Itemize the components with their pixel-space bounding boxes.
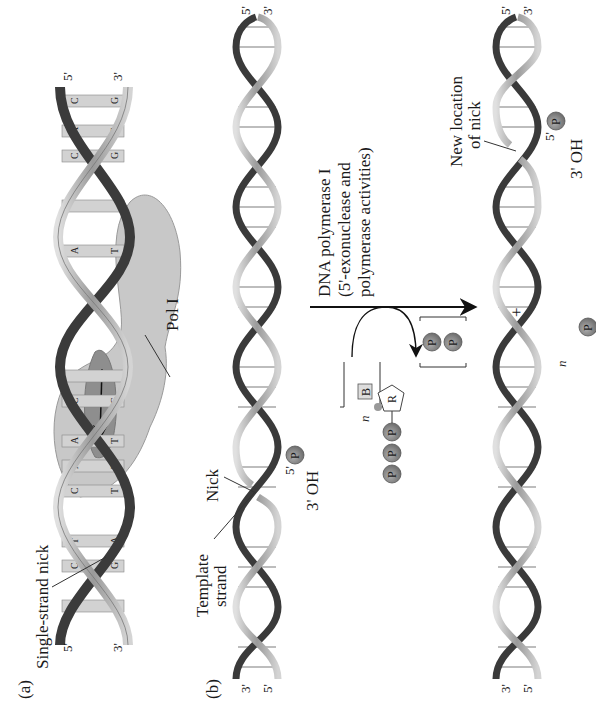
base-letter: A: [69, 246, 80, 254]
base-letter: T: [109, 248, 120, 254]
panel-b-top: (b) Template strand Nick 3': [193, 6, 322, 699]
phosphate-label: P: [385, 450, 399, 457]
linkage-dot: [374, 403, 382, 411]
pyrophosphate: P P: [420, 317, 466, 367]
panel-b-label: (b): [203, 679, 222, 699]
new-nick-5prime-label: 5': [542, 132, 557, 141]
new-nick-label-line2: of nick: [465, 101, 484, 149]
nick-phosphate-label: P: [288, 452, 302, 459]
phosphate-label: P: [581, 324, 595, 331]
base-label: B: [359, 388, 373, 396]
helix-a-left-5prime: 5': [60, 643, 75, 652]
helix-a-left-3prime: 3': [110, 643, 125, 652]
helix-b-bottom-left-end-2: 5': [520, 684, 535, 693]
nick-3oh-label: 3' OH: [303, 471, 322, 511]
phosphate-label: P: [385, 429, 399, 436]
new-nick-phosphate-label: P: [549, 118, 563, 125]
helix-b-top-left-end-2: 5': [260, 684, 275, 693]
panel-b-bottom: New location of nick 3' 5' 5' 3': [447, 6, 586, 693]
helix-a-right-5prime: 5': [60, 72, 75, 81]
new-nick-3oh-label: 3' OH: [567, 139, 586, 179]
enzyme-line-2: (5'-exonuclease and: [335, 162, 354, 297]
substrate-to-pyrophosphate-arrow: [352, 307, 416, 357]
base-letter: C: [69, 97, 80, 104]
single-strand-nick-label: Single-strand nick: [33, 544, 52, 669]
product-dnmp: n P +: [507, 307, 596, 367]
base-letter: G: [109, 152, 120, 159]
reaction-scheme: DNA polymerase I (5'-exonuclease and pol…: [310, 147, 596, 483]
base-letter: C: [69, 487, 80, 494]
helix-b-bottom: [484, 17, 538, 679]
substrate-dntp: n P P P R B: [340, 362, 404, 483]
nick-5prime-label: 5': [282, 466, 297, 475]
phosphate-label: P: [446, 339, 460, 346]
helix-b-bottom-right-end-1: 5': [498, 6, 513, 15]
base-letter: C: [69, 152, 80, 159]
panel-a-label: (a): [15, 680, 34, 699]
nick-label: Nick: [203, 468, 222, 502]
pol-i-label: Pol I: [163, 298, 182, 331]
base-letter: G: [109, 97, 120, 104]
template-strand-label-line2: strand: [211, 565, 230, 607]
substrate-multiplier: n: [357, 416, 372, 423]
helix-b-bottom-left-end-1: 3': [498, 684, 513, 693]
dna-polymerase-nick-translation-diagram: (a) Single-strand nick: [0, 0, 596, 707]
helix-b-top-right-end-1: 5': [238, 6, 253, 15]
helix-a-right-3prime: 3': [110, 72, 125, 81]
enzyme-line-1: DNA polymerase I: [315, 168, 334, 297]
helix-b-bottom-right-end-2: 3': [520, 6, 535, 15]
product-multiplier: n: [554, 361, 569, 368]
pol-i-enzyme-shape: [54, 195, 181, 497]
template-strand-label-line1: Template: [193, 554, 212, 617]
sugar-label: R: [385, 395, 399, 403]
enzyme-line-3: polymerase activities): [355, 147, 374, 297]
phosphate-label: P: [425, 339, 439, 346]
figure-stage: (a) Single-strand nick: [0, 0, 596, 707]
helix-b-top-left-end-1: 3': [238, 684, 253, 693]
base-letter: A: [69, 436, 80, 444]
base-letter: T: [109, 488, 120, 494]
helix-b-top-right-end-2: 3': [260, 6, 275, 15]
new-nick-label-line1: New location: [447, 75, 466, 167]
panel-a: (a) Single-strand nick: [15, 72, 182, 699]
phosphate-label: P: [385, 471, 399, 478]
base-letter: T: [109, 438, 120, 444]
